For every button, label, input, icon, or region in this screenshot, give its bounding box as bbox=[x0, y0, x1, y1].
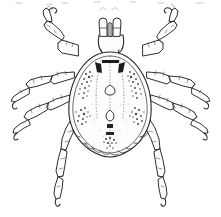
palp-left bbox=[99, 18, 107, 36]
figure-root bbox=[0, 0, 221, 217]
palp-right bbox=[113, 18, 121, 36]
midline-ornament-3 bbox=[107, 124, 113, 128]
capitulum bbox=[98, 18, 123, 56]
idiosoma bbox=[69, 52, 151, 157]
midline-ornament-4 bbox=[106, 132, 114, 135]
tick-illustration bbox=[0, 0, 221, 217]
anterior-bar-center bbox=[102, 60, 119, 63]
